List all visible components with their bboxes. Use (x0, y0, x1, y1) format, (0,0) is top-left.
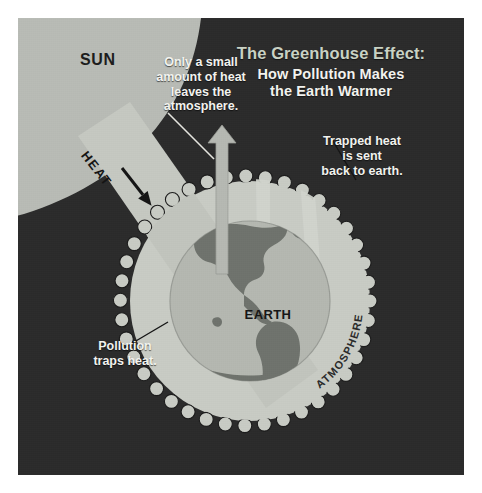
greenhouse-effect-poster: ATMOSPHERE SUN The Greenhouse Effect: Ho… (0, 0, 482, 493)
diagram-artboard: ATMOSPHERE SUN The Greenhouse Effect: Ho… (18, 18, 464, 475)
greenhouse-diagram: ATMOSPHERE (18, 18, 464, 475)
